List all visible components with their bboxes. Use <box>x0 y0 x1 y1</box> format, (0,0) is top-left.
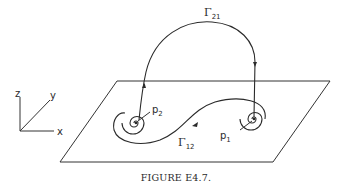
figure-e4-7: z y x p2 p1 Γ21 Γ12 FIGURE E4.7. <box>0 0 347 187</box>
axes: z y x <box>15 88 63 137</box>
gamma12-label: Γ12 <box>178 136 195 151</box>
y-axis <box>20 100 50 131</box>
y-axis-label: y <box>50 90 56 101</box>
gamma21-label: Γ21 <box>204 6 221 21</box>
x-axis-label: x <box>57 126 63 137</box>
p1-point <box>253 118 256 121</box>
p2-point <box>135 122 138 125</box>
figure-caption: FIGURE E4.7. <box>141 172 212 183</box>
gamma12-arrow-icon <box>192 122 198 127</box>
z-axis-label: z <box>15 88 20 99</box>
p1-label: p1 <box>220 130 231 144</box>
gamma21-arrow-down-icon <box>253 62 257 67</box>
phase-plane <box>60 81 330 162</box>
p2-label: p2 <box>152 104 163 118</box>
